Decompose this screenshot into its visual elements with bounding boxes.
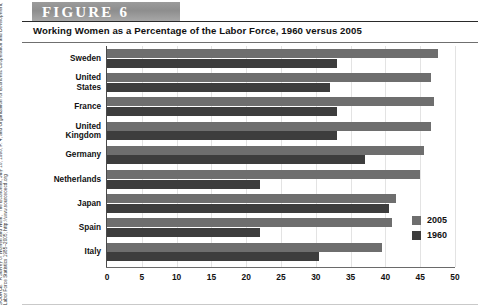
figure-header: FIGURE 6 <box>22 2 478 23</box>
legend-swatch-1960 <box>412 231 421 240</box>
bar-netherlands-2005 <box>107 170 420 179</box>
category-label-sweden: Sweden <box>0 54 106 63</box>
x-tick-label: 25 <box>269 272 293 282</box>
subtitle-divider <box>22 42 478 43</box>
legend-item-1960: 1960 <box>412 229 478 244</box>
bar-sweden-2005 <box>107 49 438 58</box>
x-tick-label: 0 <box>95 272 119 282</box>
category-label-line: France <box>0 102 101 111</box>
x-tick-label: 20 <box>234 272 258 282</box>
category-label-line: United <box>0 73 101 82</box>
bar-japan-2005 <box>107 194 396 203</box>
x-tick-label: 50 <box>443 272 467 282</box>
x-axis-line <box>106 267 455 268</box>
category-label-line: United <box>0 122 101 131</box>
x-tick-label: 30 <box>304 272 328 282</box>
category-label-japan: Japan <box>0 199 106 208</box>
x-tick-label: 35 <box>339 272 363 282</box>
legend-item-2005: 2005 <box>412 214 478 229</box>
bar-united-states-2005 <box>107 73 431 82</box>
category-label-united-states: UnitedStates <box>0 73 106 92</box>
category-label-line: Germany <box>0 150 101 159</box>
figure-title: Working Women as a Percentage of the Lab… <box>33 25 362 36</box>
category-label-line: Netherlands <box>0 175 101 184</box>
bar-spain-2005 <box>107 218 392 227</box>
x-tick-label: 40 <box>373 272 397 282</box>
category-label-line: Sweden <box>0 54 101 63</box>
category-label-france: France <box>0 102 106 111</box>
bar-united-kingdom-1960 <box>107 131 337 140</box>
x-tick-label: 15 <box>199 272 223 282</box>
x-tick-label: 5 <box>130 272 154 282</box>
bar-sweden-1960 <box>107 59 337 68</box>
bar-germany-2005 <box>107 146 424 155</box>
legend-swatch-2005 <box>412 216 421 225</box>
figure-container: FIGURE 6 Working Women as a Percentage o… <box>22 0 478 307</box>
bar-united-states-1960 <box>107 83 330 92</box>
bar-italy-1960 <box>107 252 319 261</box>
bar-united-kingdom-2005 <box>107 122 431 131</box>
bar-france-1960 <box>107 107 337 116</box>
chart-plot-area: SwedenUnitedStatesFranceUnitedKingdomGer… <box>22 46 478 296</box>
legend-label-1960: 1960 <box>427 230 447 240</box>
category-label-line: Kingdom <box>0 131 101 140</box>
bar-spain-1960 <box>107 228 260 237</box>
bar-france-2005 <box>107 97 434 106</box>
figure-subtitle-container: Working Women as a Percentage of the Lab… <box>22 21 478 43</box>
x-tick-label: 10 <box>165 272 189 282</box>
category-label-line: Spain <box>0 223 101 232</box>
bar-germany-1960 <box>107 155 365 164</box>
bar-japan-1960 <box>107 204 389 213</box>
category-label-united-kingdom: UnitedKingdom <box>0 122 106 141</box>
category-label-italy: Italy <box>0 247 106 256</box>
page-bottom-rule <box>22 304 478 305</box>
category-label-germany: Germany <box>0 150 106 159</box>
category-label-line: Japan <box>0 199 101 208</box>
chart-legend: 20051960 <box>412 214 478 244</box>
category-label-line: States <box>0 83 101 92</box>
figure-number-label: FIGURE 6 <box>42 4 129 21</box>
category-label-netherlands: Netherlands <box>0 175 106 184</box>
bar-netherlands-1960 <box>107 180 260 189</box>
category-label-line: Italy <box>0 247 101 256</box>
x-tick-label: 45 <box>408 272 432 282</box>
bar-italy-2005 <box>107 243 382 252</box>
legend-label-2005: 2005 <box>427 215 447 225</box>
category-label-spain: Spain <box>0 223 106 232</box>
